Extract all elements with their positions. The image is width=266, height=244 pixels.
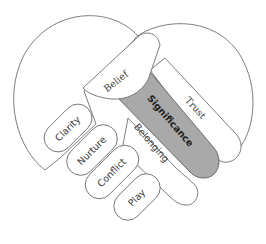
clasped-hands-heart-diagram: Belief Trust Significance Belonging Clar… <box>0 0 266 244</box>
diagram-canvas: Belief Trust Significance Belonging Clar… <box>0 0 266 244</box>
